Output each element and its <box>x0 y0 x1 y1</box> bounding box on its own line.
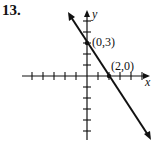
y-axis <box>83 10 91 140</box>
point-label-0-3: (0,3) <box>92 35 115 49</box>
y-axis-label: y <box>91 7 98 21</box>
line-arrow-up-icon <box>68 12 75 21</box>
point-label-2-0: (2,0) <box>111 59 134 73</box>
x-axis <box>22 72 150 80</box>
line-arrow-down-icon <box>144 131 151 140</box>
point-2-0 <box>107 74 111 78</box>
graph: y x (0,3) (2,0) <box>0 0 154 148</box>
y-axis-arrow-icon <box>84 10 90 17</box>
x-axis-label: x <box>144 75 151 89</box>
point-0-3 <box>85 41 89 45</box>
